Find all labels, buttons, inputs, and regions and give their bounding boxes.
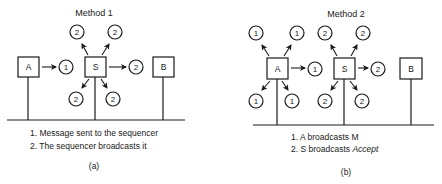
arrow-icon xyxy=(282,81,288,90)
svg-text:2: 2 xyxy=(323,29,328,38)
message-2: 2 xyxy=(70,25,84,39)
svg-text:2: 2 xyxy=(361,29,366,38)
svg-text:2: 2 xyxy=(360,97,365,106)
subfigure-label: (b) xyxy=(341,167,352,177)
message-1: 1 xyxy=(249,26,263,40)
message-2: 2 xyxy=(356,26,370,40)
message-1: 1 xyxy=(308,62,322,76)
svg-text:2: 2 xyxy=(376,65,381,74)
arrow-icon xyxy=(262,81,270,90)
node-a: A xyxy=(267,58,288,79)
message-1: 1 xyxy=(59,60,73,74)
node-sequencer: S xyxy=(334,58,355,79)
message-2: 2 xyxy=(108,25,122,39)
svg-text:B: B xyxy=(161,62,167,72)
message-2: 2 xyxy=(318,94,332,108)
step-2-text: 2. S broadcasts Accept xyxy=(291,144,379,154)
message-1: 1 xyxy=(290,26,304,40)
svg-text:S: S xyxy=(93,62,99,72)
svg-text:2: 2 xyxy=(134,63,139,72)
arrow-icon xyxy=(350,81,357,90)
svg-text:2: 2 xyxy=(75,28,80,37)
arrow-icon xyxy=(101,79,107,88)
message-2: 2 xyxy=(355,94,369,108)
arrow-icon xyxy=(331,45,337,56)
panel-title: Method 1 xyxy=(75,8,113,18)
svg-text:S: S xyxy=(342,64,348,74)
arrow-icon xyxy=(102,44,109,55)
message-1: 1 xyxy=(285,94,299,108)
svg-text:B: B xyxy=(408,64,414,74)
node-sequencer: S xyxy=(85,57,106,77)
arrow-icon xyxy=(284,45,291,56)
svg-text:1: 1 xyxy=(254,29,259,38)
panel-title: Method 2 xyxy=(327,9,365,19)
arrow-icon xyxy=(331,81,338,90)
svg-text:1: 1 xyxy=(290,97,295,106)
message-2: 2 xyxy=(129,60,143,74)
message-2: 2 xyxy=(318,26,332,40)
subfigure-label: (a) xyxy=(89,161,100,171)
svg-text:2: 2 xyxy=(323,97,328,106)
svg-text:1: 1 xyxy=(254,97,259,106)
svg-text:A: A xyxy=(275,64,281,74)
svg-text:2: 2 xyxy=(111,95,116,104)
accept-emphasis: Accept xyxy=(351,144,379,154)
svg-text:2: 2 xyxy=(74,95,79,104)
step-1-text: 1. A broadcasts M xyxy=(291,132,359,142)
step-1-text: 1. Message sent to the sequencer xyxy=(30,128,158,138)
panel-method-2: Method 2 A S B xyxy=(249,9,434,177)
svg-text:1: 1 xyxy=(313,65,318,74)
svg-text:1: 1 xyxy=(295,29,300,38)
node-b: B xyxy=(153,57,174,77)
arrow-icon xyxy=(82,79,89,88)
arrow-icon xyxy=(262,45,269,56)
message-2: 2 xyxy=(106,92,120,106)
sequencer-broadcast-diagram: Method 1 A S B 1 xyxy=(0,0,442,184)
step-2-text: 2. The sequencer broadcasts it xyxy=(30,141,147,151)
svg-text:A: A xyxy=(26,62,32,72)
arrow-icon xyxy=(351,45,357,56)
message-2: 2 xyxy=(69,92,83,106)
message-2: 2 xyxy=(371,62,385,76)
message-1: 1 xyxy=(249,94,263,108)
arrow-icon xyxy=(82,44,88,55)
panel-method-1: Method 1 A S B 1 xyxy=(7,8,185,171)
node-b: B xyxy=(400,58,422,79)
node-a: A xyxy=(18,57,39,77)
svg-text:1: 1 xyxy=(64,63,69,72)
svg-text:2: 2 xyxy=(113,28,118,37)
